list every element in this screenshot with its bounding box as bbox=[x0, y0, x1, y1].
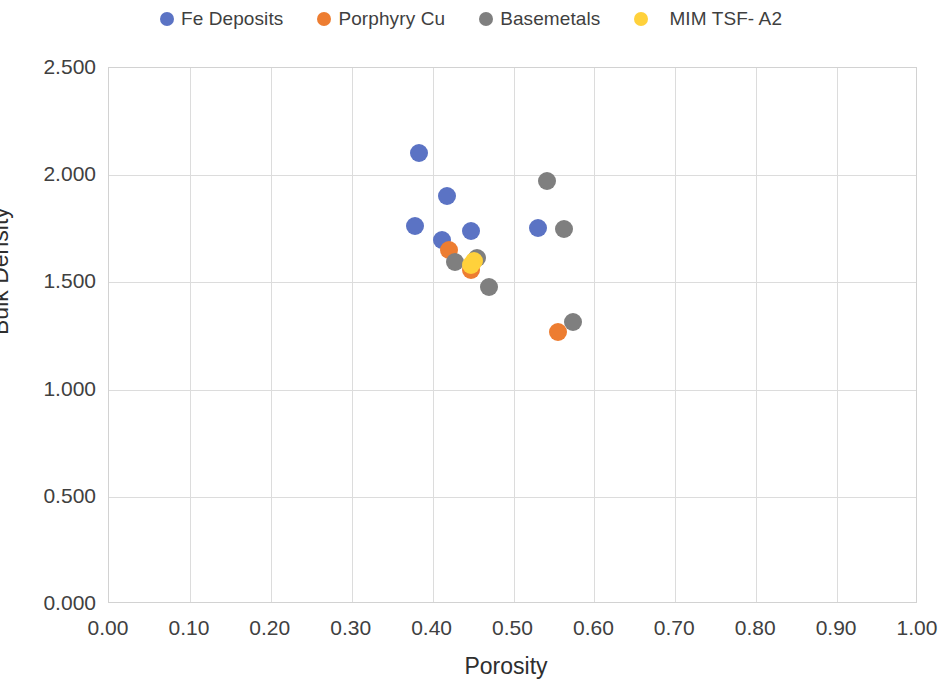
data-point bbox=[529, 219, 547, 237]
data-point bbox=[438, 187, 456, 205]
x-axis-tick-label: 0.60 bbox=[543, 616, 643, 640]
y-axis-title: Bulk Density bbox=[0, 207, 14, 335]
data-point bbox=[564, 313, 582, 331]
chart-legend: Fe DepositsPorphyry CuBasemetalsMIM TSF-… bbox=[0, 2, 942, 36]
data-points-layer bbox=[109, 68, 916, 602]
x-axis-tick-label: 0.10 bbox=[139, 616, 239, 640]
y-axis-tick-label: 2.500 bbox=[0, 55, 96, 79]
data-point bbox=[410, 144, 428, 162]
legend-item-label: Basemetals bbox=[500, 8, 600, 30]
data-point bbox=[406, 217, 424, 235]
x-axis-tick-label: 1.00 bbox=[867, 616, 942, 640]
x-axis-title-text: Porosity bbox=[394, 653, 547, 679]
plot-area bbox=[108, 67, 917, 603]
data-point bbox=[555, 220, 573, 238]
x-axis-tick-label: 0.80 bbox=[705, 616, 805, 640]
y-axis-tick-label: 0.500 bbox=[0, 484, 96, 508]
x-axis-tick-label: 0.00 bbox=[58, 616, 158, 640]
legend-marker-icon bbox=[634, 12, 648, 26]
x-axis-tick-label: 0.90 bbox=[786, 616, 886, 640]
data-point bbox=[462, 256, 480, 274]
legend-marker-icon bbox=[317, 12, 331, 26]
legend-item-porphyry-cu[interactable]: Porphyry Cu bbox=[317, 8, 445, 30]
data-point bbox=[462, 222, 480, 240]
x-axis-tick-label: 0.70 bbox=[624, 616, 724, 640]
legend-marker-icon bbox=[160, 12, 174, 26]
x-axis-tick-label: 0.30 bbox=[301, 616, 401, 640]
y-axis-tick-label: 1.000 bbox=[0, 377, 96, 401]
legend-item-basemetals[interactable]: Basemetals bbox=[479, 8, 600, 30]
legend-marker-icon bbox=[479, 12, 493, 26]
legend-item-label: MIM TSF- A2 bbox=[669, 8, 782, 30]
legend-item-label: Fe Deposits bbox=[181, 8, 283, 30]
x-axis-title: Porosity bbox=[0, 653, 942, 680]
y-axis-tick-label: 2.000 bbox=[0, 162, 96, 186]
x-axis-tick-label: 0.50 bbox=[463, 616, 563, 640]
x-axis-tick-label: 0.40 bbox=[382, 616, 482, 640]
legend-item-mim-tsf-a2[interactable]: MIM TSF- A2 bbox=[634, 8, 782, 30]
y-axis-tick-label: 0.000 bbox=[0, 591, 96, 615]
data-point bbox=[538, 172, 556, 190]
data-point bbox=[480, 278, 498, 296]
legend-item-fe-deposits[interactable]: Fe Deposits bbox=[160, 8, 283, 30]
scatter-chart: Fe DepositsPorphyry CuBasemetalsMIM TSF-… bbox=[0, 0, 942, 685]
x-axis-tick-label: 0.20 bbox=[220, 616, 320, 640]
legend-item-label: Porphyry Cu bbox=[338, 8, 445, 30]
y-axis-tick-label: 1.500 bbox=[0, 269, 96, 293]
